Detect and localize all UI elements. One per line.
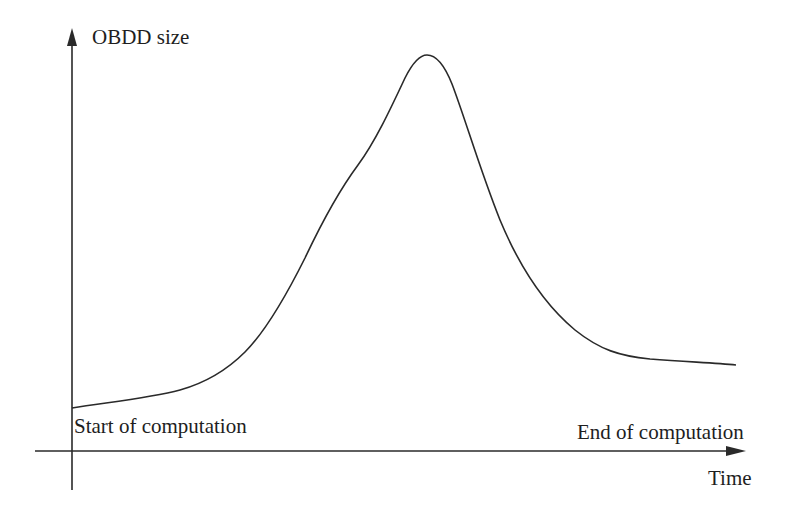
obdd-size-curve (72, 55, 736, 408)
y-axis-label: OBDD size (92, 27, 189, 48)
end-annotation: End of computation (577, 422, 744, 443)
x-axis-arrow-icon (726, 446, 746, 456)
start-annotation: Start of computation (74, 416, 247, 437)
x-axis-label: Time (708, 468, 752, 489)
x-axis (35, 446, 746, 456)
y-axis-arrow-icon (67, 28, 77, 46)
